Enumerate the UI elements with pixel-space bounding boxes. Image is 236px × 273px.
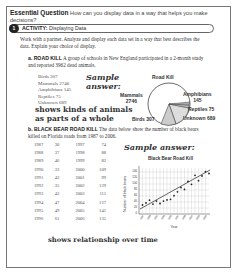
sample-line-2: answer: [86, 82, 121, 91]
svg-text:1987: 1987 [139, 214, 145, 221]
svg-text:40: 40 [134, 199, 138, 203]
year-cell: 1987 [34, 140, 48, 148]
count-cell: 43 [48, 173, 66, 181]
count-cell: 129 [94, 181, 106, 189]
svg-text:Year: Year [171, 225, 179, 229]
sample-answer-b: Sample answer: [124, 142, 195, 152]
pie-label-reptiles: Reptiles 75 [188, 107, 214, 113]
part-a-title: ROAD KILL [34, 55, 62, 61]
pie-chart [140, 80, 200, 130]
count-cell: 111 [94, 190, 106, 198]
sample-answer-a: Sample answer: [86, 73, 121, 91]
year-cell: 1989 [34, 157, 48, 165]
essential-question-label: Essential Question [10, 9, 69, 16]
year-cell: 1997 [66, 140, 94, 148]
year-cell: 1998 [66, 148, 94, 156]
svg-text:Number of black bears: Number of black bears [123, 176, 127, 212]
activity-number: 1 [9, 24, 19, 33]
year-cell: 2003 [66, 190, 94, 198]
year-cell: 1999 [66, 157, 94, 165]
count-cell: 61 [48, 215, 66, 223]
svg-text:120: 120 [132, 175, 137, 179]
table-row: 198946199982 [34, 157, 106, 165]
year-cell: 1992 [34, 181, 48, 189]
x-ticks: 1987 1989 1991 1993 1995 1997 1999 2001 … [139, 214, 208, 221]
year-cell: 1994 [34, 198, 48, 206]
year-cell: 2006 [66, 215, 94, 223]
activity-label: ACTIVITY: [22, 25, 48, 31]
year-cell: 1990 [34, 165, 48, 173]
table-row: 1990332000109 [34, 165, 106, 173]
count-cell: 99 [94, 173, 106, 181]
count-cell: 46 [48, 157, 66, 165]
svg-text:2005: 2005 [202, 214, 208, 221]
part-b-prompt: b. BLACK BEAR ROAD KILL The data below s… [28, 126, 208, 139]
instructions: Work with a partner. Analyze and display… [20, 36, 200, 49]
svg-text:0: 0 [135, 211, 137, 215]
count-cell: 88 [94, 148, 106, 156]
year-cell: 1996 [34, 215, 48, 223]
count-cell: 37 [48, 148, 66, 156]
handwritten-answer-a: shows kinds of animals as parts of a who… [35, 105, 132, 123]
count-cell: 49 [48, 206, 66, 214]
table-row: 1994472004127 [34, 198, 106, 206]
handwritten-line-1: shows kinds of animals [35, 105, 132, 114]
svg-text:140: 140 [132, 169, 137, 173]
table-row: 199143200199 [34, 173, 106, 181]
bear-data-table: 198730199774 198837199888 198946199982 1… [34, 140, 106, 223]
pie-label-birds: Birds 307 [132, 117, 155, 123]
table-row: 1995492005141 [34, 206, 106, 214]
year-cell: 2004 [66, 198, 94, 206]
count-cell: 47 [48, 198, 66, 206]
svg-text:2003: 2003 [195, 214, 201, 221]
year-cell: 2002 [66, 181, 94, 189]
handwritten-line-2: as parts of a whole [35, 114, 132, 123]
svg-text:60: 60 [134, 193, 138, 197]
svg-text:1995: 1995 [167, 214, 173, 221]
count-cell: 33 [48, 165, 66, 173]
part-b-letter: b. [28, 126, 33, 132]
part-a-prompt: a. ROAD KILL A group of schools in New E… [28, 55, 208, 68]
year-cell: 2001 [66, 173, 94, 181]
count-cell: 135 [94, 215, 106, 223]
svg-text:100: 100 [132, 181, 137, 185]
table-row: 198730199774 [34, 140, 106, 148]
svg-text:20: 20 [134, 205, 138, 209]
pie-label-amphibians: Amphibians145 [183, 92, 212, 103]
svg-text:1997: 1997 [174, 214, 180, 221]
count-cell: 74 [94, 140, 106, 148]
count-cell: 109 [94, 165, 106, 173]
svg-text:1999: 1999 [181, 214, 187, 221]
activity-title: Displaying Data [49, 25, 86, 31]
svg-text:1991: 1991 [153, 214, 159, 221]
year-cell: 1991 [34, 173, 48, 181]
count-cell: 127 [94, 198, 106, 206]
road-kill-counts: Birds 307 Mammals 2746 Amphibians 145 Re… [38, 74, 71, 107]
year-cell: 2005 [66, 206, 94, 214]
year-cell: 1993 [34, 190, 48, 198]
table-row: 1992352002129 [34, 181, 106, 189]
year-cell: 1988 [34, 148, 48, 156]
year-cell: 2000 [66, 165, 94, 173]
part-a-letter: a. [28, 55, 32, 61]
count-cell: 35 [48, 181, 66, 189]
table-row: 1996612006135 [34, 215, 106, 223]
count-cell: 141 [94, 206, 106, 214]
svg-text:1989: 1989 [146, 214, 152, 221]
count-amphibians: Amphibians 145 [38, 87, 71, 94]
part-b-title: BLACK BEAR ROAD KILL [34, 126, 98, 132]
year-cell: 1995 [34, 206, 48, 214]
pie-label-mammals: Mammals2746 [120, 93, 143, 104]
table-row: 198837199888 [34, 148, 106, 156]
svg-text:80: 80 [134, 187, 138, 191]
count-cell: 43 [48, 190, 66, 198]
y-ticks: 0 20 40 60 80 100 120 140 [132, 169, 137, 215]
count-cell: 82 [94, 157, 106, 165]
scatter-chart: Number of black bears 0 20 40 60 80 100 … [122, 160, 212, 230]
svg-text:1993: 1993 [160, 214, 166, 221]
essential-question: Essential Question How can you display d… [10, 9, 210, 24]
pie-label-unknown: Unknown 689 [183, 116, 215, 122]
table-row: 1993432003111 [34, 190, 106, 198]
handwritten-answer-b: shows relationship over time [48, 236, 158, 244]
activity-banner: 1 ACTIVITY: Displaying Data [9, 24, 214, 33]
